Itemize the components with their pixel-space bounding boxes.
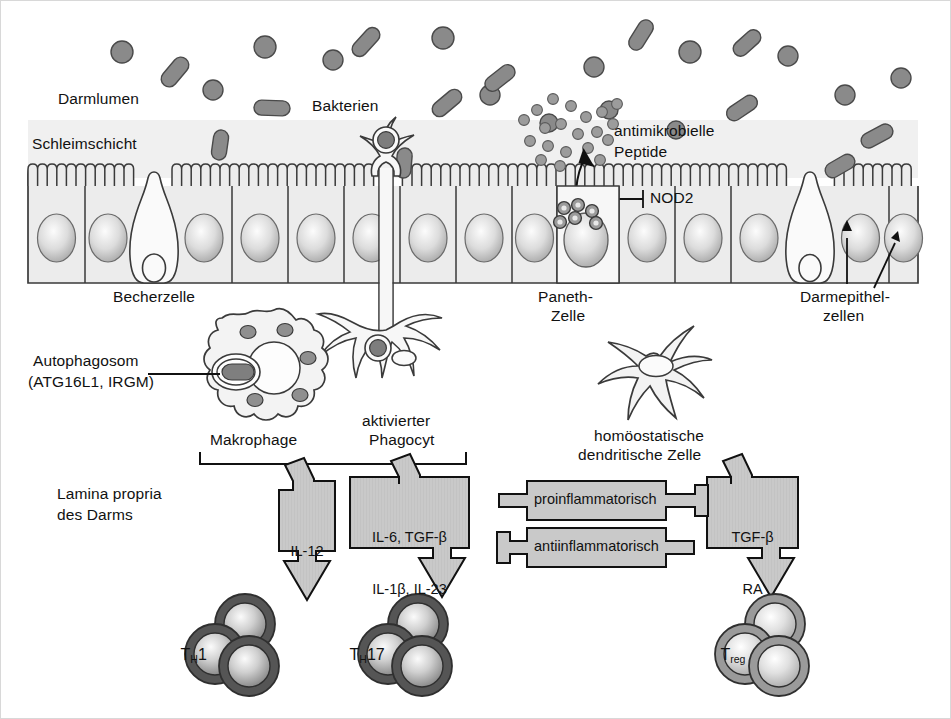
tcell-label-treg: Treg [703, 628, 745, 683]
treg-line-1: RA [707, 581, 798, 598]
label-dendritic-line2: dendritische Zelle [578, 446, 701, 464]
label-phagocyt-line2: Phagocyt [369, 431, 434, 449]
il12-line-0: IL-12 [279, 543, 335, 560]
bar-label-antiinflammatorisch: antiinflammatorisch [534, 538, 659, 554]
label-lamina-line1: Lamina propria [57, 485, 162, 503]
label-antimikrobielle-peptide-line1: antimikrobielle [614, 122, 715, 140]
cytokine-text-th17: IL-6, TGF-β IL-1β, IL-23 [350, 494, 469, 633]
label-becherzelle: Becherzelle [113, 288, 195, 306]
th17-sub: H [359, 653, 367, 665]
label-nod2: NOD2 [650, 189, 693, 207]
th17-base: T [350, 646, 360, 663]
figure-canvas: Darmlumen Schleimschicht Bakterien antim… [0, 0, 951, 719]
tcell-label-th1: TH1 [163, 628, 207, 683]
label-autophagosom-line2: (ATG16L1, IRGM) [28, 373, 154, 391]
label-makrophage: Makrophage [210, 431, 297, 449]
label-antimikrobielle-peptide-line2: Peptide [614, 143, 667, 161]
bar-label-proinflammatorisch: proinflammatorisch [534, 491, 657, 507]
figure-border [1, 1, 951, 719]
treg-sub: reg [730, 653, 745, 665]
cytokine-text-treg: TGF-β RA [707, 494, 798, 633]
th1-suffix: 1 [198, 646, 207, 663]
macrophage [148, 309, 328, 420]
th1-base: T [181, 646, 191, 663]
th17-line-0: IL-6, TGF-β [350, 529, 469, 546]
label-paneth-line1: Paneth- [538, 288, 593, 306]
treg-base: T [721, 646, 731, 663]
label-darmlumen: Darmlumen [58, 90, 139, 108]
th17-line-1: IL-1β, IL-23 [350, 581, 469, 598]
label-paneth-line2: Zelle [551, 307, 585, 325]
autophagosome [212, 354, 260, 390]
phagocyte-bracket [200, 452, 466, 464]
label-phagocyt-line1: aktivierter [362, 412, 430, 430]
label-darmepithel-line1: Darmepithel- [800, 288, 890, 306]
label-dendritic-line1: homöostatische [594, 427, 704, 445]
label-darmepithel-line2: zellen [823, 307, 864, 325]
th17-suffix: 17 [367, 646, 385, 663]
homeostatic-dendritic-cell [598, 326, 712, 420]
label-lamina-line2: des Darms [57, 506, 133, 524]
treg-line-0: TGF-β [707, 529, 798, 546]
tcell-label-th17: TH17 [332, 628, 385, 683]
label-autophagosom-line1: Autophagosom [33, 352, 138, 370]
label-schleimschicht: Schleimschicht [32, 135, 137, 153]
cytokine-text-il12: IL-12 [279, 508, 335, 595]
th1-sub: H [190, 653, 198, 665]
diagram-graphics [0, 0, 951, 719]
paneth-cell [554, 186, 619, 283]
label-bakterien: Bakterien [312, 97, 378, 115]
